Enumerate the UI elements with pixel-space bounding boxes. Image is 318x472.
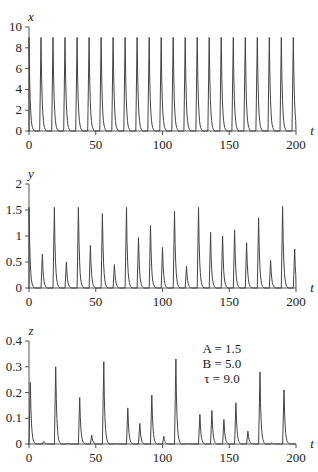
y-tick-label: 2: [16, 176, 23, 191]
x-tick-label: 200: [286, 137, 306, 152]
x-tick-label: 0: [26, 294, 33, 309]
x-tick-label: 50: [89, 137, 102, 152]
y-axis-label: z: [27, 323, 33, 338]
y-plot: 00.511.52050100150200yt: [6, 166, 314, 309]
chart-canvas: 0246810050100150200xt00.511.520501001502…: [0, 0, 318, 472]
x-axis-label: t: [310, 436, 314, 451]
y-tick-label: 0: [16, 280, 23, 295]
x-tick-label: 100: [153, 294, 173, 309]
x-tick-label: 150: [220, 294, 240, 309]
x-axis-label: t: [310, 123, 314, 138]
x-tick-label: 100: [153, 137, 173, 152]
x-tick-label: 50: [89, 294, 102, 309]
x-axis-label: t: [310, 280, 314, 295]
y-tick-label: 1: [16, 228, 23, 243]
y-tick-label: 0.5: [6, 254, 22, 269]
y-tick-label: 0.2: [6, 385, 22, 400]
y-tick-label: 2: [16, 102, 23, 117]
y-tick-label: 8: [16, 40, 23, 55]
x-tick-label: 200: [286, 450, 306, 465]
y-tick-label: 0.3: [6, 359, 22, 374]
z-plot: 00.10.20.30.4050100150200ztA = 1.5B = 5.…: [6, 323, 314, 465]
y-tick-label: 6: [16, 61, 23, 76]
annotation-line: A = 1.5: [203, 341, 242, 356]
x-tick-label: 150: [220, 137, 240, 152]
annotation-line: τ = 9.0: [204, 371, 239, 386]
x-tick-label: 0: [26, 450, 33, 465]
x-tick-label: 50: [89, 450, 102, 465]
data-series: [29, 359, 296, 444]
x-tick-label: 150: [220, 450, 240, 465]
data-series: [29, 206, 296, 288]
y-tick-label: 0: [16, 123, 23, 138]
annotation-line: B = 5.0: [203, 356, 242, 371]
y-tick-label: 0: [16, 436, 23, 451]
x-tick-label: 100: [153, 450, 173, 465]
data-series: [29, 37, 296, 131]
x-tick-label: 200: [286, 294, 306, 309]
y-tick-label: 0.1: [6, 410, 22, 425]
y-tick-label: 10: [9, 19, 22, 34]
y-axis-label: x: [27, 9, 34, 24]
y-tick-label: 4: [16, 81, 23, 96]
parameter-annotation: A = 1.5B = 5.0τ = 9.0: [203, 341, 242, 386]
y-tick-label: 0.4: [6, 333, 23, 348]
x-plot: 0246810050100150200xt: [9, 9, 314, 152]
x-tick-label: 0: [26, 137, 33, 152]
y-tick-label: 1.5: [6, 202, 22, 217]
y-axis-label: y: [26, 166, 34, 181]
